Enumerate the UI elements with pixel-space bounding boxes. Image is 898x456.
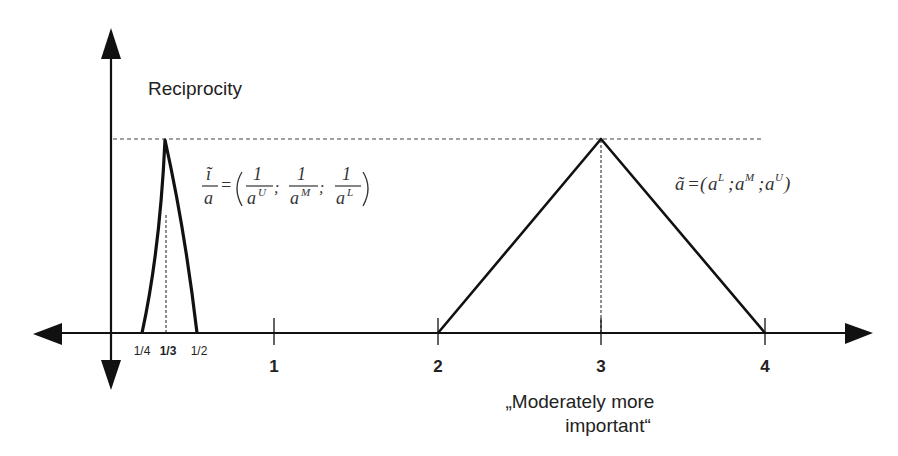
tfn-term-3-base: a [765, 173, 775, 194]
x-axis-right-arrow-icon [845, 323, 873, 344]
term-3-base: a [336, 188, 345, 208]
tfn-formula: ã = ( a L ; a M ; a U ) [675, 171, 790, 195]
formula-lhs-denominator: a [204, 188, 213, 208]
tfn-open-paren: ( [700, 173, 708, 195]
y-axis-down-arrow-icon [101, 360, 121, 390]
term-2-sup: M [300, 186, 311, 198]
tick-label-3: 3 [596, 357, 605, 376]
tick-label-2: 2 [433, 357, 442, 376]
tfn-term-1-sup: L [717, 171, 724, 183]
x-annotation-line-2: important“ [565, 415, 651, 436]
fuzzy-number-diagram: 1/4 1/3 1/2 1 2 3 4 Reciprocity „Moderat… [0, 0, 898, 456]
tfn-sep-1: ; [728, 173, 734, 194]
formula-equals: = [220, 175, 232, 195]
reciprocal-fuzzy-triangle [142, 140, 197, 333]
tfn-close-paren: ) [783, 173, 790, 195]
x-annotation-line-1: „Moderately more [506, 391, 655, 412]
tfn-equals: = [687, 173, 700, 194]
tfn-term-2-base: a [735, 173, 745, 194]
tick-label-1: 1 [269, 357, 278, 376]
tick-label-one-half: 1/2 [191, 344, 208, 358]
term-1-base: a [247, 188, 256, 208]
y-axis [101, 28, 121, 390]
tfn-sep-2: ; [758, 173, 764, 194]
x-axis-ticks [274, 318, 765, 345]
formula-lhs-numerator: ĩ [206, 164, 213, 184]
term-3-numerator: 1 [342, 164, 351, 184]
tfn-term-1-base: a [708, 173, 718, 194]
tick-label-4: 4 [760, 357, 770, 376]
tfn-term-2-sup: M [744, 171, 755, 183]
x-axis-left-arrow-icon [33, 323, 62, 345]
y-axis-label: Reciprocity [148, 78, 242, 99]
y-axis-up-arrow-icon [101, 28, 121, 59]
tick-label-one-quarter: 1/4 [134, 344, 151, 358]
reciprocal-formula: ĩ a = 1 a U ; 1 a M ; 1 a L [202, 164, 368, 208]
term-2-base: a [290, 188, 299, 208]
term-sep-1: ; [274, 179, 279, 196]
tfn-lhs: ã [675, 173, 685, 194]
tfn-term-3-sup: U [775, 171, 784, 183]
term-sep-2: ; [319, 179, 324, 196]
tick-label-one-third: 1/3 [160, 344, 177, 358]
formula-open-paren [237, 172, 242, 206]
term-2-numerator: 1 [297, 164, 306, 184]
term-1-sup: U [258, 186, 267, 198]
term-3-sup: L [346, 186, 353, 198]
formula-close-paren [363, 172, 368, 206]
x-axis [33, 323, 873, 345]
term-1-numerator: 1 [253, 164, 262, 184]
